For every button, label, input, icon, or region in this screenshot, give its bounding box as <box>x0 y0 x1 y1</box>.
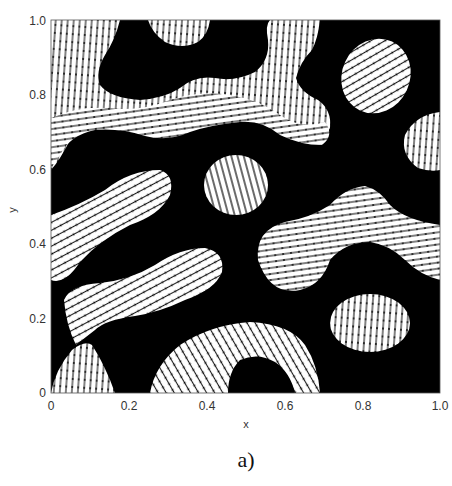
y-tick-0.6: 0.6 <box>29 163 46 177</box>
x-axis: 0 0.2 0.4 0.6 0.8 1.0 x <box>48 399 449 430</box>
x-tick-0.2: 0.2 <box>121 399 138 413</box>
x-axis-label: x <box>243 418 249 430</box>
figure: 0 0.2 0.4 0.6 0.8 1.0 y 0 0.2 0.4 0.6 0.… <box>0 0 452 486</box>
domain-bottom-right-ellipse <box>330 294 410 352</box>
x-tick-0.6: 0.6 <box>277 399 294 413</box>
y-axis: 0 0.2 0.4 0.6 0.8 1.0 y <box>6 14 46 400</box>
domain-center-circle <box>204 155 268 215</box>
x-tick-0: 0 <box>48 399 55 413</box>
y-tick-0: 0 <box>39 386 46 400</box>
x-tick-0.4: 0.4 <box>199 399 216 413</box>
figure-caption: a) <box>237 447 254 472</box>
y-tick-0.2: 0.2 <box>29 312 46 326</box>
x-tick-1.0: 1.0 <box>432 399 449 413</box>
x-tick-0.8: 0.8 <box>355 399 372 413</box>
y-axis-label: y <box>6 207 18 213</box>
y-tick-0.8: 0.8 <box>29 88 46 102</box>
y-tick-1.0: 1.0 <box>29 14 46 28</box>
y-tick-0.4: 0.4 <box>29 237 46 251</box>
